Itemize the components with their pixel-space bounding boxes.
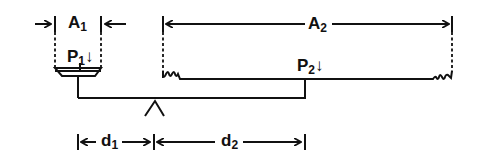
label-d1: d1: [101, 132, 118, 151]
beam: [78, 79, 305, 98]
small-piston: [55, 63, 101, 98]
label-d1-sub: 1: [111, 138, 118, 152]
label-d2-main: d: [221, 131, 231, 150]
label-a2: A2: [308, 15, 327, 34]
label-d2: d2: [221, 132, 238, 151]
label-a1: A1: [68, 14, 87, 33]
label-a2-main: A: [308, 14, 320, 33]
label-p1-main: P: [67, 47, 78, 66]
lever-beam: [78, 79, 305, 116]
p2-down-arrow-icon: ↓: [315, 56, 324, 75]
p1-down-arrow-icon: ↓: [85, 47, 94, 66]
label-d1-main: d: [101, 131, 111, 150]
fulcrum-pivot-icon: [145, 101, 164, 116]
label-p1: P1↓: [67, 48, 94, 67]
label-a2-sub: 2: [320, 21, 327, 35]
label-a1-sub: 1: [80, 20, 87, 34]
label-p2: P2↓: [297, 57, 324, 76]
label-a1-main: A: [68, 13, 80, 32]
label-d2-sub: 2: [231, 138, 238, 152]
label-p2-main: P: [297, 56, 308, 75]
